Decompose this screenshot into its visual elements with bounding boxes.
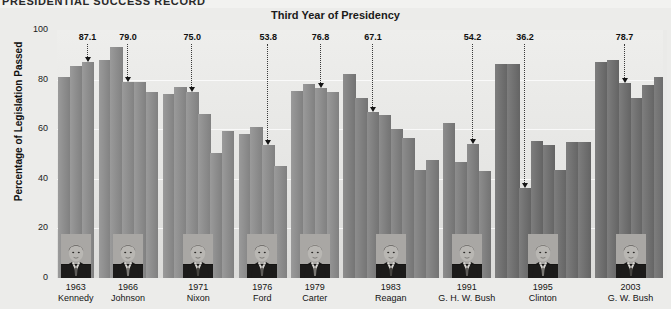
callout-arrow xyxy=(265,140,271,145)
bar xyxy=(595,62,607,278)
callout-arrow xyxy=(370,107,376,112)
bar-shading xyxy=(507,64,519,278)
bar xyxy=(507,64,519,278)
callout-value: 79.0 xyxy=(106,32,150,42)
president-portrait xyxy=(113,234,143,278)
callout-arrow xyxy=(189,87,195,92)
bar-shading xyxy=(99,60,111,278)
callout-value: 54.2 xyxy=(451,32,495,42)
president-portrait xyxy=(247,234,277,278)
callout-stem xyxy=(87,44,89,57)
callout-value: 53.8 xyxy=(246,32,290,42)
callout-stem xyxy=(524,44,526,183)
callout-value: 76.8 xyxy=(299,32,343,42)
bar xyxy=(222,131,234,278)
bar xyxy=(566,142,578,278)
callout-value: 36.2 xyxy=(503,32,547,42)
president-portrait xyxy=(183,234,213,278)
bar xyxy=(495,64,507,278)
bar xyxy=(414,170,426,278)
bar-shading xyxy=(343,74,355,278)
callout-arrow xyxy=(125,77,131,82)
bar-shading xyxy=(414,170,426,278)
plot-area: 87.179.075.053.876.867.154.236.278.7 xyxy=(57,30,667,278)
callout-stem xyxy=(127,44,129,77)
president-portrait xyxy=(616,234,646,278)
masthead-title: PRESIDENTIAL SUCCESS RECORD xyxy=(2,0,206,7)
president-portrait xyxy=(376,234,406,278)
callout-value: 78.7 xyxy=(603,32,647,42)
callout-value: 87.1 xyxy=(66,32,110,42)
bar-shading xyxy=(222,131,234,278)
bar-shading xyxy=(595,62,607,278)
x-axis-labels: 1963Kennedy1966Johnson1971Nixon1976Ford1… xyxy=(57,280,667,309)
callout-stem xyxy=(472,44,474,139)
callout-stem xyxy=(191,44,193,87)
bar-shading xyxy=(426,160,438,278)
callout-stem xyxy=(372,44,374,107)
bar-shading xyxy=(495,64,507,278)
president-portrait xyxy=(61,234,91,278)
bar-shading xyxy=(163,94,175,278)
chart-title: Third Year of Presidency xyxy=(0,9,671,21)
x-axis-group-label: 1995Clinton xyxy=(498,282,588,304)
callout-value: 67.1 xyxy=(351,32,395,42)
bar xyxy=(99,60,111,278)
x-axis-group-label: 2003G. W. Bush xyxy=(586,282,671,304)
bar xyxy=(355,98,367,278)
bar xyxy=(146,92,158,278)
callout-arrow xyxy=(522,183,528,188)
chart-root: PRESIDENTIAL SUCCESS RECORD Third Year o… xyxy=(0,0,671,309)
callout-value: 75.0 xyxy=(170,32,214,42)
plot-right-edge xyxy=(663,30,667,278)
callout-arrow xyxy=(622,78,628,83)
callout-stem xyxy=(624,44,626,78)
president-portrait xyxy=(452,234,482,278)
bar xyxy=(163,94,175,278)
president-portrait xyxy=(300,234,330,278)
bar xyxy=(343,74,355,278)
x-label-president: G. W. Bush xyxy=(586,293,671,304)
callout-stem xyxy=(267,44,269,140)
callout-arrow xyxy=(470,139,476,144)
x-label-year: 2003 xyxy=(586,282,671,293)
x-label-year: 1995 xyxy=(498,282,588,293)
bar-shading xyxy=(578,142,590,278)
callout-stem xyxy=(320,44,322,83)
callout-arrow xyxy=(318,83,324,88)
y-tick-label: 0 xyxy=(14,272,48,282)
callout-arrow xyxy=(85,57,91,62)
bar-shading xyxy=(355,98,367,278)
president-portrait xyxy=(528,234,558,278)
x-label-president: Clinton xyxy=(498,293,588,304)
figure: Third Year of Presidency 87.179.075.053.… xyxy=(0,8,671,309)
bar-shading xyxy=(566,142,578,278)
bar-shading xyxy=(146,92,158,278)
bar xyxy=(578,142,590,278)
y-axis-title: Percentage of Legislation Passed xyxy=(13,2,24,242)
masthead-strip: PRESIDENTIAL SUCCESS RECORD xyxy=(0,0,671,8)
bar xyxy=(426,160,438,278)
